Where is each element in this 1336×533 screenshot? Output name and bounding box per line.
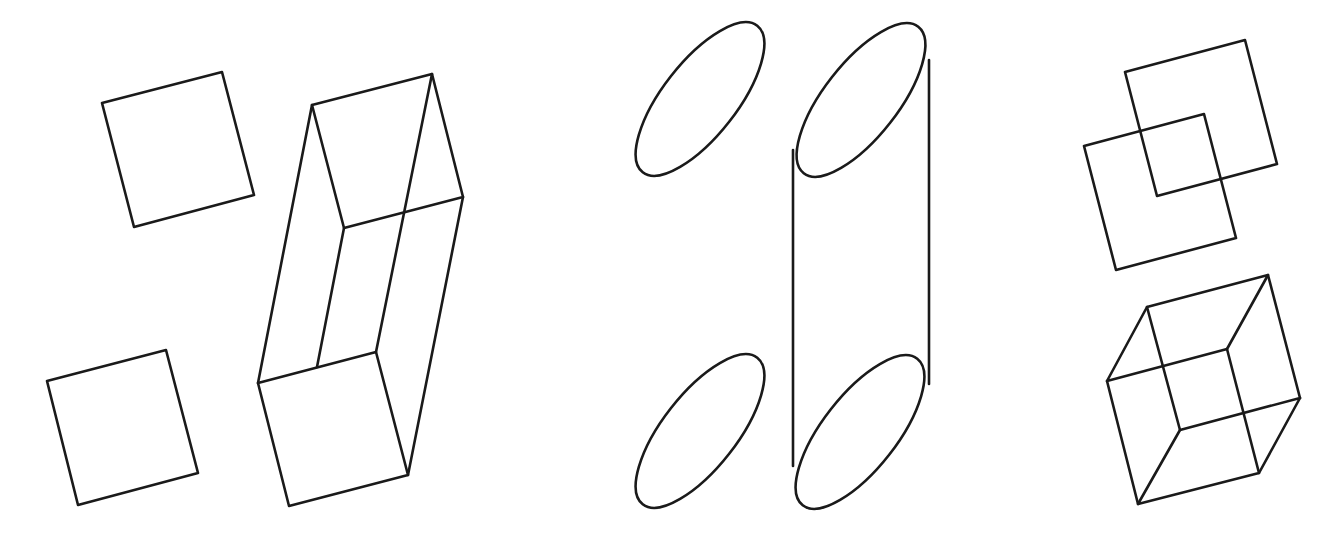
cube-front-shape [1107, 349, 1259, 504]
prism-edges-line-1 [376, 74, 432, 352]
square-upper-shape [1125, 40, 1277, 196]
diagram-svg [0, 0, 1336, 533]
cube-edges-line-1 [1227, 275, 1268, 349]
cube-edges-line-3 [1138, 430, 1180, 504]
cube-back-shape [1147, 275, 1300, 430]
squares-and-cube-group [1084, 40, 1300, 504]
prism-edges-line-3 [317, 228, 344, 367]
square-lower-shape [1084, 114, 1236, 270]
diagram-canvas [0, 0, 1336, 533]
ellipse-extrusion-group [614, 3, 948, 528]
square-b-shape [47, 350, 198, 505]
cube-edges-line-2 [1259, 398, 1300, 473]
cyl-top-ellipse [775, 4, 948, 196]
square-extrusion-group [47, 72, 463, 506]
prism-top-shape [312, 74, 463, 228]
cube-edges-line-0 [1107, 307, 1147, 381]
prism-edges-line-0 [258, 105, 312, 383]
ellipse-b-ellipse [614, 335, 787, 527]
cyl-bottom-ellipse [774, 336, 947, 528]
square-a-shape [102, 72, 254, 227]
prism-bottom-shape [258, 352, 408, 506]
prism-edges-line-2 [408, 197, 463, 475]
ellipse-a-ellipse [614, 3, 787, 195]
